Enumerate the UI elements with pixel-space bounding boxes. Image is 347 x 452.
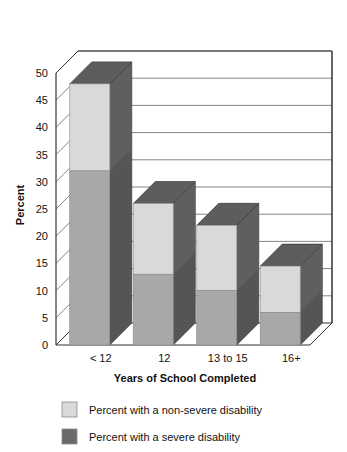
y-tick-label: 20 [36,230,48,242]
bar-group [70,62,323,345]
y-tick-label: 30 [36,176,48,188]
y-tick-label: 25 [36,203,48,215]
stacked-3d-bar-chart: 05101520253035404550 < 121213 to 1516+ P… [0,0,347,452]
y-tick-label: 5 [42,312,48,324]
bar-4 [260,244,322,345]
x-tick-labels: < 121213 to 1516+ [90,352,301,364]
y-tick-label: 40 [36,121,48,133]
legend-swatch-2 [62,429,77,444]
y-tick-label: 10 [36,285,48,297]
y-tick-labels: 05101520253035404550 [36,67,48,351]
y-tick-label: 35 [36,149,48,161]
x-tick-label-2: 12 [158,352,170,364]
y-axis-title: Percent [14,184,26,225]
bar-2 [133,182,195,345]
legend-label-2: Percent with a severe disability [89,431,241,443]
bar-3 [197,203,259,345]
x-axis-title: Years of School Completed [114,372,256,384]
chart-container: 05101520253035404550 < 121213 to 1516+ P… [0,0,347,452]
y-tick-label: 0 [42,339,48,351]
y-tick-label: 15 [36,257,48,269]
x-tick-label-4: 16+ [282,352,301,364]
legend: Percent with a non-severe disabilityPerc… [62,402,263,444]
bar-1 [70,62,132,345]
legend-swatch-1 [62,402,77,417]
legend-label-1: Percent with a non-severe disability [89,404,263,416]
y-tick-label: 45 [36,94,48,106]
x-tick-label-1: < 12 [90,352,112,364]
x-tick-label-3: 13 to 15 [208,352,248,364]
y-tick-label: 50 [36,67,48,79]
